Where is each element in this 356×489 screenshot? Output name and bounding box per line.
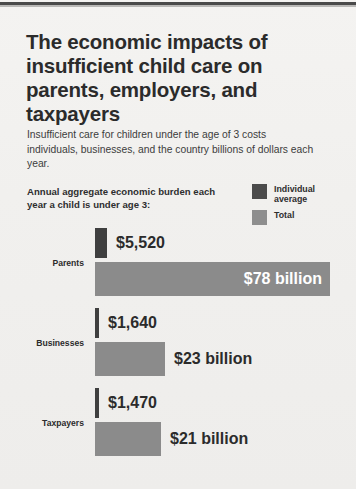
- chart-group-parents: Parents $5,520 $78 billion: [0, 228, 356, 308]
- infographic-page: The economic impacts of insufficient chi…: [0, 0, 356, 489]
- chart-group-label-parents: Parents: [0, 258, 84, 268]
- grouped-bar-chart: Parents $5,520 $78 billion Businesses: [0, 228, 356, 468]
- bar-row-total-parents: $78 billion: [95, 262, 356, 296]
- chart-bars-taxpayers: $1,470 $21 billion: [95, 388, 356, 456]
- bar-individual-parents: [95, 228, 107, 258]
- chart-group-label-taxpayers: Taxpayers: [0, 418, 84, 428]
- bar-row-individual-taxpayers: $1,470: [95, 388, 356, 418]
- chart-group-label-businesses: Businesses: [0, 338, 84, 348]
- bar-row-total-businesses: $23 billion: [95, 342, 356, 376]
- page-subtitle: Insufficient care for children under the…: [27, 128, 317, 172]
- chart-intro-label: Annual aggregate economic burden each ye…: [27, 186, 237, 211]
- bar-individual-taxpayers: [95, 388, 99, 418]
- bar-total-parents: $78 billion: [95, 262, 330, 296]
- bar-value-total-parents: $78 billion: [244, 270, 322, 288]
- bar-value-total-businesses: $23 billion: [174, 350, 252, 368]
- legend-label-total: Total: [274, 210, 294, 220]
- bar-value-total-taxpayers: $21 billion: [170, 430, 248, 448]
- legend-item-individual-average: Individual average: [252, 184, 348, 204]
- page-title: The economic impacts of insufficient chi…: [26, 30, 326, 126]
- bar-total-taxpayers: [95, 422, 161, 456]
- bar-value-individual-taxpayers: $1,470: [108, 394, 157, 412]
- chart-group-businesses: Businesses $1,640 $23 billion: [0, 308, 356, 388]
- chart-legend: Individual average Total: [252, 184, 348, 231]
- chart-bars-parents: $5,520 $78 billion: [95, 228, 356, 296]
- legend-swatch-icon-individual-average: [252, 184, 267, 199]
- legend-item-total: Total: [252, 210, 348, 225]
- bar-individual-businesses: [95, 308, 99, 338]
- bar-row-individual-parents: $5,520: [95, 228, 356, 258]
- bar-row-individual-businesses: $1,640: [95, 308, 356, 338]
- bar-total-businesses: [95, 342, 165, 376]
- bar-row-total-taxpayers: $21 billion: [95, 422, 356, 456]
- chart-bars-businesses: $1,640 $23 billion: [95, 308, 356, 376]
- legend-swatch-icon-total: [252, 210, 267, 225]
- bar-value-individual-businesses: $1,640: [108, 314, 157, 332]
- bar-value-individual-parents: $5,520: [116, 234, 165, 252]
- legend-label-individual-average: Individual average: [274, 184, 348, 204]
- infographic-content: The economic impacts of insufficient chi…: [0, 0, 356, 489]
- chart-group-taxpayers: Taxpayers $1,470 $21 billion: [0, 388, 356, 468]
